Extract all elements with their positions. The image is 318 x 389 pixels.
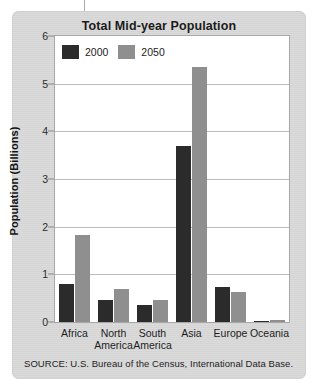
x-axis-category-label: Oceania [238, 327, 302, 339]
gridline [55, 84, 289, 85]
y-axis-tick-label: 3 [30, 173, 48, 185]
chart-legend: 20002050 [62, 45, 165, 59]
y-axis-tick-label: 6 [30, 30, 48, 42]
bar-north-america-2050 [114, 289, 130, 322]
x-axis-category-label-line: Oceania [238, 327, 302, 339]
bar-asia-2000 [176, 146, 192, 322]
legend-swatch-2050 [118, 45, 135, 59]
legend-label-2000: 2000 [85, 46, 108, 58]
gridline [55, 131, 289, 132]
y-axis-tick-label: 5 [30, 78, 48, 90]
y-axis-tick-mark [48, 274, 54, 275]
bar-europe-2050 [231, 292, 247, 322]
legend-swatch-2000 [62, 45, 79, 59]
legend-item-2000: 2000 [62, 45, 108, 59]
y-axis-tick-label: 2 [30, 221, 48, 233]
legend-item-2050: 2050 [118, 45, 164, 59]
y-axis-tick-mark [48, 131, 54, 132]
bar-oceania-2050 [270, 320, 286, 322]
y-axis-tick-mark [48, 179, 54, 180]
bar-oceania-2000 [254, 321, 270, 322]
y-axis-tick-label: 1 [30, 268, 48, 280]
plot-area [54, 35, 290, 323]
bar-africa-2000 [59, 284, 75, 322]
y-axis-tick-mark [48, 226, 54, 227]
bar-south-america-2050 [153, 300, 169, 322]
y-axis-tick-label: 4 [30, 125, 48, 137]
source-note: SOURCE: U.S. Bureau of the Census, Inter… [24, 358, 293, 369]
bar-europe-2000 [215, 287, 231, 322]
bar-north-america-2000 [98, 300, 114, 322]
chart-page: Total Mid-year Population Population (Bi… [0, 0, 318, 389]
gridline [55, 227, 289, 228]
bar-asia-2050 [192, 67, 208, 322]
y-axis-label: Population (Billions) [8, 91, 20, 271]
y-axis-tick-mark [48, 83, 54, 84]
y-axis-tick-mark [48, 322, 54, 323]
legend-label-2050: 2050 [141, 46, 164, 58]
x-axis-category-label-line: America [121, 339, 185, 351]
gridline [55, 179, 289, 180]
bar-south-america-2000 [137, 305, 153, 322]
y-axis-tick-mark [48, 36, 54, 37]
bar-africa-2050 [75, 235, 91, 322]
